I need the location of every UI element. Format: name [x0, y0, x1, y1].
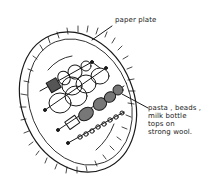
- label-materials-line: milk bottle: [148, 112, 220, 120]
- label-paper-plate: paper plate: [115, 16, 156, 24]
- label-materials-line: tops on: [148, 120, 220, 128]
- paper-plate-drawing: [0, 0, 222, 187]
- illustration-canvas: paper plate pasta , beads , milk bottle …: [0, 0, 222, 187]
- label-materials-line: pasta , beads ,: [148, 104, 220, 112]
- label-materials-line: strong wool.: [148, 128, 220, 136]
- leader-plate: [92, 26, 112, 40]
- label-materials: pasta , beads , milk bottle tops on stro…: [148, 104, 220, 136]
